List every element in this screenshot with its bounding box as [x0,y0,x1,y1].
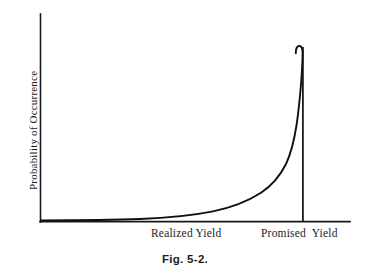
probability-distribution-curve [41,46,303,220]
figure-container: Probability of Occurrence Realized Yield… [0,0,370,273]
x-axis-label-realized-yield: Realized Yield [151,227,221,239]
x-axis-label-promised-yield: Promised Yield [261,227,338,239]
figure-caption: Fig. 5-2. [0,253,370,265]
y-axis-label: Probability of Occurrence [27,71,39,190]
